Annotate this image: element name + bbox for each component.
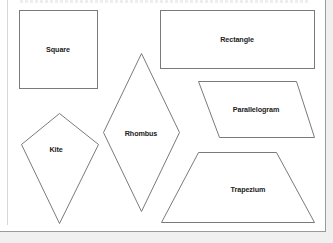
rectangle-label: Rectangle bbox=[220, 35, 254, 44]
parallelogram-label: Parallelogram bbox=[233, 105, 279, 114]
quadrilaterals-diagram bbox=[0, 0, 333, 243]
square-label: Square bbox=[46, 45, 70, 54]
trapezium-label: Trapezium bbox=[231, 185, 266, 194]
kite-shape bbox=[22, 114, 99, 224]
kite-label: Kite bbox=[49, 145, 62, 154]
rhombus-label: Rhombus bbox=[125, 129, 158, 138]
